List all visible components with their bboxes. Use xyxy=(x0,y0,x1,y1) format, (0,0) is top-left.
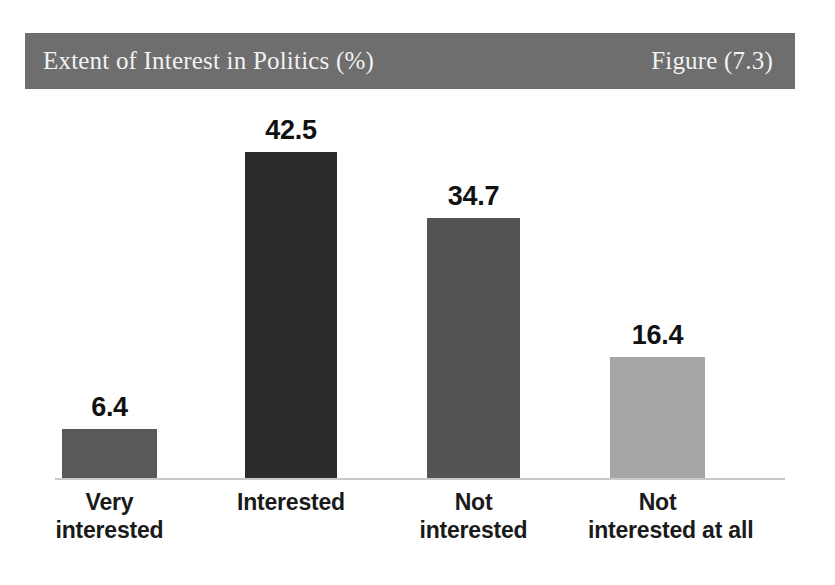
bar-not-interested[interactable] xyxy=(427,218,520,478)
figure-root: Extent of Interest in Politics (%) Figur… xyxy=(0,0,835,585)
bar-label-line: interested xyxy=(405,516,542,544)
bar-value-not-interested: 34.7 xyxy=(427,181,520,212)
bar-very-interested[interactable] xyxy=(62,429,157,478)
bar-not-interested-at-all[interactable] xyxy=(610,357,705,478)
page-title: Extent of Interest in Politics (%) xyxy=(43,47,374,75)
bar-value-not-interested-at-all: 16.4 xyxy=(610,320,705,351)
bar-label-line: Interested xyxy=(223,488,359,516)
bar-label-line: interested xyxy=(40,516,179,544)
bar-label-line: Not xyxy=(588,488,727,516)
figure-number-label: Figure (7.3) xyxy=(651,47,773,75)
bar-label-line: Very xyxy=(40,488,179,516)
bar-group-very-interested: 6.4 Very interested xyxy=(62,100,157,585)
bar-label-line: interested at all xyxy=(588,516,727,544)
bar-group-not-interested: 34.7 Not interested xyxy=(427,100,520,585)
chart-header-band: Extent of Interest in Politics (%) Figur… xyxy=(25,33,795,89)
bar-value-very-interested: 6.4 xyxy=(62,392,157,423)
bar-label-not-interested-at-all: Not interested at all xyxy=(588,488,727,544)
bar-value-interested: 42.5 xyxy=(245,115,337,146)
bar-group-not-interested-at-all: 16.4 Not interested at all xyxy=(610,100,705,585)
chart-plot-area: 6.4 Very interested 42.5 Interested 34.7 xyxy=(0,100,835,585)
bar-group-interested: 42.5 Interested xyxy=(245,100,337,585)
bar-label-very-interested: Very interested xyxy=(40,488,179,544)
bar-label-not-interested: Not interested xyxy=(405,488,542,544)
bar-label-line: Not xyxy=(405,488,542,516)
bar-interested[interactable] xyxy=(245,152,337,478)
bar-label-interested: Interested xyxy=(223,488,359,516)
